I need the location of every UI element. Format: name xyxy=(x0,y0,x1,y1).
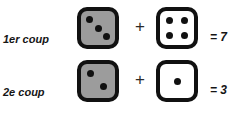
roll-result-1: = 7 xyxy=(210,31,227,44)
plus-operator-1: + xyxy=(130,18,150,36)
plus-operator-2: + xyxy=(130,71,150,89)
roll-label-2: 2e coup xyxy=(3,86,75,98)
white-die-roll-2 xyxy=(156,60,198,102)
roll-row-2: 2e coup + = 3 xyxy=(0,53,242,110)
roll-result-2: = 3 xyxy=(210,84,227,97)
pip-icon xyxy=(166,17,173,24)
roll-label-1: 1er coup xyxy=(3,33,75,45)
gray-die-roll-2 xyxy=(77,60,119,102)
pip-icon xyxy=(174,78,181,85)
pip-icon xyxy=(181,32,188,39)
pip-icon xyxy=(166,32,173,39)
roll-row-1: 1er coup + = 7 xyxy=(0,0,242,57)
pip-icon xyxy=(86,16,93,23)
pip-icon xyxy=(87,70,94,77)
pip-icon xyxy=(95,25,102,32)
white-die-roll-1 xyxy=(156,7,198,49)
dice-rolls-figure: 1er coup + = 7 2e coup + = 3 xyxy=(0,0,242,115)
pip-icon xyxy=(181,17,188,24)
pip-icon xyxy=(100,83,107,90)
gray-die-roll-1 xyxy=(77,7,119,49)
pip-icon xyxy=(103,33,110,40)
